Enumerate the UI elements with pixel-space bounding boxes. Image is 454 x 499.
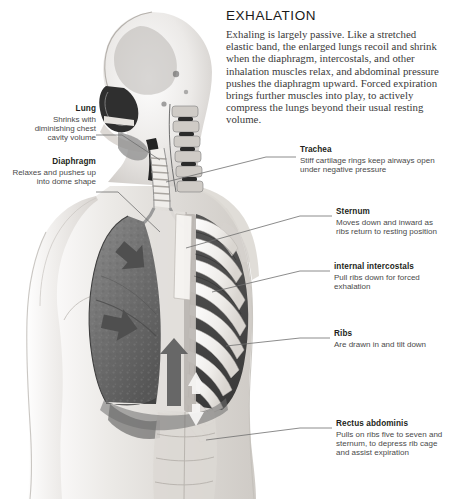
callout-lung-heading: Lung — [12, 104, 96, 114]
intro-paragraph: Exhaling is largely passive. Like a stre… — [226, 28, 444, 126]
sternum — [174, 214, 192, 300]
callout-sternum-heading: Sternum — [336, 207, 448, 217]
callout-lung: Lung Shrinks with diminishing chest cavi… — [12, 104, 96, 143]
headline-block: EXHALATION Exhaling is largely passive. … — [226, 8, 444, 126]
callout-ribs-text: Are drawn in and tilt down — [334, 340, 444, 349]
callout-trachea-text: Stiff cartilage rings keep airways open … — [300, 156, 446, 175]
anatomy-diagram-page: EXHALATION Exhaling is largely passive. … — [0, 0, 454, 499]
callout-internal-intercostals-text: Pull ribs down for forced exhalation — [334, 273, 446, 292]
callout-ribs-heading: Ribs — [334, 329, 444, 339]
callout-sternum: Sternum Moves down and inward as ribs re… — [336, 207, 448, 236]
callout-diaphragm-heading: Diaphragm — [12, 157, 96, 167]
callout-internal-intercostals: internal intercostals Pull ribs down for… — [334, 262, 446, 291]
callout-sternum-text: Moves down and inward as ribs return to … — [336, 218, 448, 237]
callout-lung-text: Shrinks with diminishing chest cavity vo… — [12, 115, 96, 143]
callout-rectus-abdominis-heading: Rectus abdominis — [336, 419, 448, 429]
callout-trachea: Trachea Stiff cartilage rings keep airwa… — [300, 145, 446, 174]
callout-diaphragm: Diaphragm Relaxes and pushes up into dom… — [12, 157, 96, 186]
callout-rectus-abdominis-text: Pulls on ribs five to seven and sternum,… — [336, 430, 448, 458]
callout-trachea-heading: Trachea — [300, 145, 446, 155]
callout-diaphragm-text: Relaxes and pushes up into dome shape — [12, 168, 96, 187]
callout-ribs: Ribs Are drawn in and tilt down — [334, 329, 444, 349]
callout-internal-intercostals-heading: internal intercostals — [334, 262, 446, 272]
page-title: EXHALATION — [226, 8, 444, 23]
callout-rectus-abdominis: Rectus abdominis Pulls on ribs five to s… — [336, 419, 448, 458]
